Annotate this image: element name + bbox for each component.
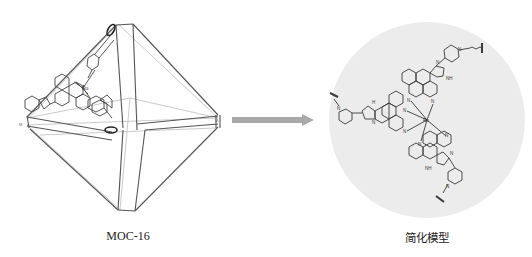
n-label: N xyxy=(407,98,410,103)
vertex-label-right: M xyxy=(215,118,218,123)
h-label: H xyxy=(372,100,375,105)
n-label: N xyxy=(445,133,448,138)
nh-label: NH xyxy=(446,76,453,81)
pyridine-n-label: N xyxy=(446,184,449,189)
n-label: N xyxy=(431,99,434,104)
n-label: N xyxy=(436,60,439,65)
pyridine-n-label: N xyxy=(337,106,340,111)
moc16-structure-panel: Ru M M MOC-16 xyxy=(0,0,260,257)
ru-label-left: Ru xyxy=(82,85,89,91)
n-label: N xyxy=(372,120,375,125)
nh-label: NH xyxy=(425,166,432,171)
n-label: N xyxy=(403,108,406,113)
ru-label: Ru xyxy=(423,118,429,123)
pyridine-n-label: N xyxy=(458,47,461,52)
ru-tris-ligand-structure: Ru N N N N N N NH N H N NH N N N N xyxy=(320,0,532,230)
moc16-caption: MOC-16 xyxy=(106,229,149,244)
right-arrow-icon xyxy=(232,113,314,127)
n-label: N xyxy=(450,151,453,156)
octahedral-cage-drawing: Ru M M xyxy=(0,0,260,230)
n-label: N xyxy=(403,129,406,134)
simplified-model-panel: Ru N N N N N N NH N H N NH N N N N 简化模型 xyxy=(320,0,532,257)
vertex-label-left: M xyxy=(19,122,22,127)
simplified-model-caption: 简化模型 xyxy=(405,229,449,245)
cage-front-edges xyxy=(27,24,220,211)
n-label: N xyxy=(418,142,421,147)
